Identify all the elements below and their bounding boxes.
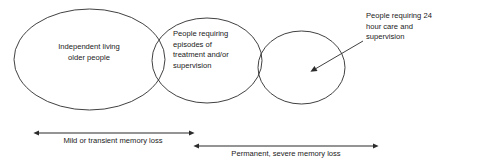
- scale-label-mild-memory-loss: Mild or transient memory loss: [30, 136, 196, 147]
- group-label-independent-living: Independent living older people: [23, 42, 155, 63]
- group-label-episodes-treatment: People requiring episodes of treatment a…: [173, 29, 259, 71]
- callout-label-24hour-care: People requiring 24 hour care and superv…: [366, 11, 474, 43]
- ellipse-24hour-care: [258, 31, 345, 104]
- diagram-canvas: Independent living older people People r…: [0, 0, 477, 167]
- scale-label-permanent-memory-loss: Permanent, severe memory loss: [196, 149, 376, 160]
- callout-pointer-arrow: [316, 41, 363, 69]
